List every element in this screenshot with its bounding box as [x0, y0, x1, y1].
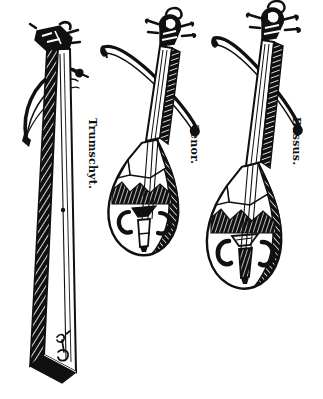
label-bassus: Bassus. — [290, 117, 303, 165]
bassus-tailpiece — [239, 248, 252, 278]
trumschyt-soundhole-mark — [61, 208, 65, 212]
woodcut-illustration — [0, 0, 323, 399]
label-tenor: Tenor. — [188, 125, 201, 164]
woodcut-plate: Trumschyt. Tenor. Bassus. — [0, 0, 323, 399]
label-trumschyt: Trumschyt. — [86, 118, 99, 189]
